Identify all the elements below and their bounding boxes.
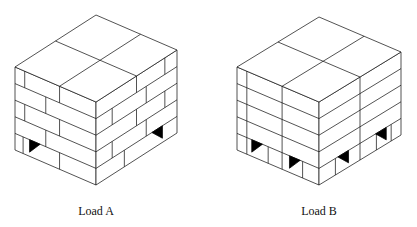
pallet-loads-diagram bbox=[0, 0, 417, 227]
load-b-label: Load B bbox=[301, 204, 337, 219]
load-a-drawing bbox=[15, 15, 177, 185]
load-b-drawing bbox=[237, 17, 401, 185]
load-a-label: Load A bbox=[78, 204, 114, 219]
